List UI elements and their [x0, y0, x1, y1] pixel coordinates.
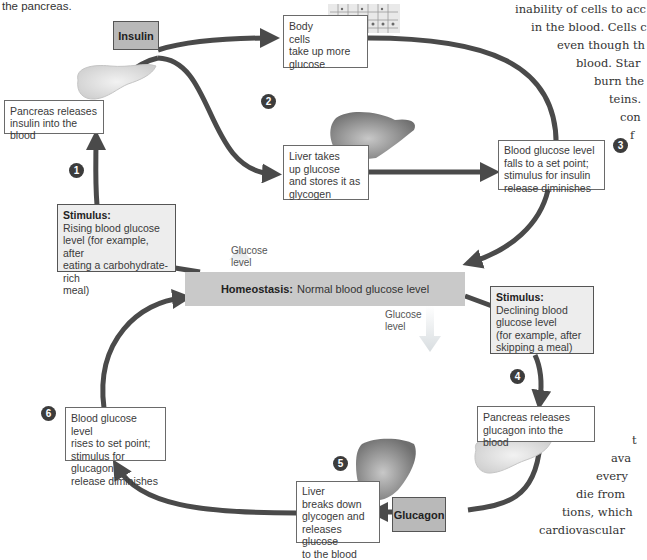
- arrow-blood-rises-to-homeostasis: [103, 298, 182, 408]
- pancreas-releases-insulin-box: Pancreas releases insulin into the blood: [4, 100, 104, 134]
- liver-breaks-down-box: Liver breaks down glycogen and releases …: [296, 481, 380, 543]
- step-badge-1: 1: [69, 163, 84, 178]
- stimulus-declining-box: Stimulus: Declining blood glucose level …: [490, 286, 594, 354]
- glucose-level-label-down: Glucose level: [385, 309, 422, 333]
- arrow-stimulus-to-pancreas-glucagon: [535, 355, 541, 400]
- blood-glucose-rises-box: Blood glucose level rises to set point; …: [65, 407, 166, 461]
- glucose-level-label-up: Glucose level: [231, 245, 268, 269]
- homeostasis-label: Homeostasis:: [221, 283, 293, 295]
- step-badge-3: 3: [613, 138, 628, 153]
- liver-takes-up-glucose-box: Liver takes up glucose and stores it as …: [283, 145, 369, 200]
- arrow-stimulus-to-pancreas: [96, 140, 97, 205]
- homeostasis-text: Normal blood glucose level: [297, 283, 429, 295]
- blood-glucose-falls-box: Blood glucose level falls to a set point…: [498, 140, 605, 190]
- body-cells-box: Body cells take up more glucose: [283, 15, 368, 68]
- glucagon-box: Glucagon: [392, 497, 446, 532]
- step-badge-4: 4: [510, 369, 525, 384]
- step-badge-6: 6: [41, 406, 56, 421]
- stimulus-title: Stimulus:: [496, 291, 544, 303]
- step-badge-2: 2: [261, 94, 276, 109]
- arrow-insulin-to-body-cells: [158, 38, 270, 50]
- insulin-box: Insulin: [113, 21, 159, 50]
- homeostasis-bar: Homeostasis: Normal blood glucose level: [185, 272, 465, 306]
- pancreas-icon-top: [78, 65, 156, 99]
- arrow-blood-falls-to-homeostasis: [472, 190, 548, 262]
- stimulus-rising-box: Stimulus: Rising blood glucose level (fo…: [57, 204, 176, 272]
- stimulus-title: Stimulus:: [63, 209, 111, 221]
- step-badge-5: 5: [333, 456, 348, 471]
- glucose-down-arrow: [419, 306, 441, 352]
- pancreas-releases-glucagon-box: Pancreas releases glucagon into the bloo…: [477, 406, 595, 442]
- arrow-insulin-to-liver: [158, 58, 272, 174]
